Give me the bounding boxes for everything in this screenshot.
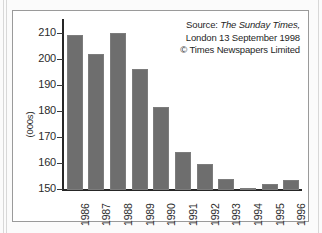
bar-1993 <box>218 179 234 190</box>
y-axis-tick-label: 200 <box>16 52 56 64</box>
source-publication: The Sunday Times, <box>220 19 300 30</box>
bar-1990 <box>153 107 169 190</box>
x-axis-tick-label-1988: 1988 <box>122 203 134 226</box>
y-axis-tick <box>57 33 63 34</box>
y-axis-tick <box>57 111 63 112</box>
source-line-3: © Times Newspapers Limited <box>180 44 300 57</box>
x-axis-tick-label-1986: 1986 <box>79 203 91 226</box>
source-line-1: Source: The Sunday Times, <box>180 19 300 32</box>
y-axis-tick-label: 150 <box>16 182 56 194</box>
x-axis-tick-label-1994: 1994 <box>252 203 264 226</box>
source-line-2: London 13 September 1998 <box>180 32 300 45</box>
x-axis-tick-label-1991: 1991 <box>187 203 199 226</box>
x-axis-tick-label-1996: 1996 <box>295 203 307 226</box>
y-axis-tick-label: 210 <box>16 26 56 38</box>
x-axis-tick-label-1995: 1995 <box>274 203 286 226</box>
bar-1986 <box>67 35 83 190</box>
chart-figure-frame: (000s) 150160170180190200210 19861987198… <box>12 10 309 222</box>
y-axis-tick-label: 160 <box>16 156 56 168</box>
y-axis-tick <box>57 59 63 60</box>
y-axis-tick <box>57 163 63 164</box>
x-axis-tick-label-1990: 1990 <box>165 203 177 226</box>
page-edge-rule-outer <box>3 0 4 233</box>
x-axis-tick-label-1993: 1993 <box>230 203 242 226</box>
source-attribution-note: Source: The Sunday Times, London 13 Sept… <box>180 19 300 57</box>
x-axis-tick-label-1992: 1992 <box>209 203 221 226</box>
bar-1987 <box>88 54 104 191</box>
bar-slot <box>88 11 104 190</box>
page-canvas: (000s) 150160170180190200210 19861987198… <box>0 0 322 233</box>
y-axis-tick <box>57 137 63 138</box>
bar-slot <box>110 11 126 190</box>
bar-1992 <box>197 164 213 190</box>
x-axis-tick-label-1987: 1987 <box>100 203 112 226</box>
y-axis-tick <box>57 189 63 190</box>
y-axis-tick-label: 170 <box>16 130 56 142</box>
bar-1995 <box>262 184 278 190</box>
y-axis-tick-label: 180 <box>16 104 56 116</box>
x-axis-tick-label-group: 1986198719881989199019911992199319941995… <box>64 192 302 226</box>
bar-slot <box>132 11 148 190</box>
y-axis-tick-label: 190 <box>16 78 56 90</box>
bar-1996 <box>283 180 299 190</box>
bar-1988 <box>110 33 126 190</box>
plot-area: (000s) 150160170180190200210 19861987198… <box>13 11 308 221</box>
page-edge-rule-right <box>318 0 319 233</box>
x-axis-tick-label-1989: 1989 <box>144 203 156 226</box>
bar-1991 <box>175 152 191 190</box>
bar-slot <box>67 11 83 190</box>
bar-slot <box>153 11 169 190</box>
bar-1994 <box>240 188 256 190</box>
y-axis-tick <box>57 85 63 86</box>
bar-1989 <box>132 69 148 190</box>
page-edge-rule-inner <box>6 0 7 233</box>
source-prefix: Source: <box>186 19 220 30</box>
